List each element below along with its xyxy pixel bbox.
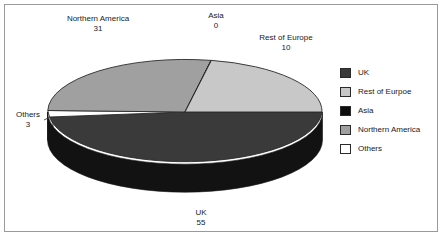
pie-label-rest-of-europe-name: Rest of Europe xyxy=(259,33,312,42)
pie-label-others-name: Others xyxy=(16,110,40,119)
legend-swatch-northern-america xyxy=(340,125,351,135)
pie-label-others: Others 3 xyxy=(6,110,50,130)
legend-item-uk: UK xyxy=(340,64,436,82)
legend-label-uk: UK xyxy=(358,68,369,78)
legend-label-others: Others xyxy=(358,144,382,154)
legend-item-others: Others xyxy=(340,140,436,158)
pie-label-rest-of-europe: Rest of Europe 10 xyxy=(246,33,326,53)
legend-label-asia: Asia xyxy=(358,106,374,116)
legend-item-rest-of-europe: Rest of Eurpoe xyxy=(340,83,436,101)
pie-label-uk-name: UK xyxy=(195,208,206,217)
legend-item-asia: Asia xyxy=(340,102,436,120)
legend-label-rest-of-europe: Rest of Eurpoe xyxy=(358,87,411,97)
legend-swatch-rest-of-europe xyxy=(340,87,351,97)
legend-swatch-asia xyxy=(340,106,351,116)
pie-label-asia-name: Asia xyxy=(208,11,224,20)
chart-screenshot: Northern America 31 Asia 0 Rest of Europ… xyxy=(0,0,446,240)
pie-label-northern-america-name: Northern America xyxy=(67,14,129,23)
legend-swatch-uk xyxy=(340,68,351,78)
pie-label-asia-value: 0 xyxy=(196,21,236,31)
pie-label-uk-value: 55 xyxy=(182,218,220,228)
pie-label-rest-of-europe-value: 10 xyxy=(246,43,326,53)
legend-swatch-others xyxy=(340,144,351,154)
pie-label-asia: Asia 0 xyxy=(196,11,236,31)
pie-label-northern-america-value: 31 xyxy=(52,24,144,34)
legend-label-northern-america: Northern America xyxy=(358,125,420,135)
pie-label-northern-america: Northern America 31 xyxy=(52,14,144,34)
pie-slice-northern-america xyxy=(48,59,211,112)
chart-legend: UK Rest of Eurpoe Asia Northern America … xyxy=(340,64,436,159)
legend-item-northern-america: Northern America xyxy=(340,121,436,139)
pie-label-others-value: 3 xyxy=(6,120,50,130)
pie-label-uk: UK 55 xyxy=(182,208,220,228)
pie-top-face xyxy=(48,59,322,161)
